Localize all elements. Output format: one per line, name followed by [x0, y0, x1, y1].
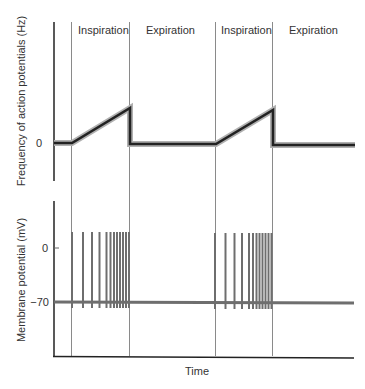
bottom-tick-rest: −70 — [30, 296, 49, 308]
bottom-panel-membrane: 0 −70 Membrane potential (mV) — [15, 201, 354, 377]
respiratory-neuron-diagram: Inspiration Expiration Inspiration Expir… — [0, 0, 365, 389]
top-panel-frequency: 0 Frequency of action potentials (Hz) — [15, 16, 355, 187]
top-tick-zero: 0 — [36, 137, 42, 149]
top-y-label: Frequency of action potentials (Hz) — [15, 16, 27, 187]
frequency-trace — [54, 108, 355, 145]
spike-burst-2 — [215, 233, 272, 309]
x-axis-label-time: Time — [185, 365, 209, 377]
phase-label-expiration-2: Expiration — [289, 24, 338, 36]
spike-burst-1 — [72, 232, 129, 308]
x-axis — [53, 357, 354, 359]
bottom-tick-zero: 0 — [42, 242, 48, 254]
phase-label-inspiration-1: Inspiration — [78, 24, 129, 36]
phase-label-inspiration-2: Inspiration — [221, 24, 272, 36]
phase-label-expiration-1: Expiration — [146, 24, 195, 36]
bottom-y-label: Membrane potential (mV) — [15, 218, 27, 342]
